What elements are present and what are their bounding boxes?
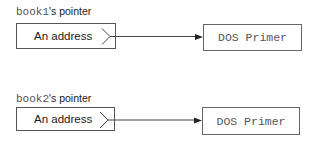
arrow-2 [100,112,196,128]
chevron-icon [102,29,110,45]
arrowhead-icon [195,34,203,40]
arrowhead-icon [194,118,202,124]
chevron-icon [100,112,108,128]
pointer-arrows [0,0,313,144]
arrow-1 [102,29,197,45]
